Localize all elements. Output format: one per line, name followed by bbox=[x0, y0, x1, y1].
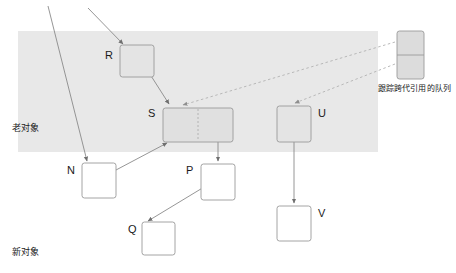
node-box-N[interactable] bbox=[82, 163, 116, 198]
old-generation-label: 老对象 bbox=[12, 121, 40, 134]
queue-layer bbox=[397, 31, 424, 79]
node-label-Q: Q bbox=[128, 223, 137, 235]
node-box-Q[interactable] bbox=[142, 222, 175, 255]
node-box-R[interactable] bbox=[120, 45, 154, 77]
diagram-vector-layer bbox=[0, 0, 456, 273]
node-box-V[interactable] bbox=[277, 206, 311, 241]
node-label-V: V bbox=[318, 207, 325, 219]
queue-caption: 跟踪跨代引用的队列 bbox=[378, 82, 451, 93]
node-label-N: N bbox=[67, 164, 75, 176]
new-generation-label: 新对象 bbox=[12, 245, 40, 258]
node-box-U[interactable] bbox=[277, 106, 311, 142]
node-label-S: S bbox=[148, 107, 155, 119]
node-label-P: P bbox=[186, 164, 193, 176]
node-label-U: U bbox=[318, 107, 326, 119]
node-box-P[interactable] bbox=[201, 164, 235, 200]
node-label-R: R bbox=[105, 49, 113, 61]
diagram-canvas: 老对象 新对象 跟踪跨代引用的队列 R S U N P Q V bbox=[0, 0, 456, 273]
